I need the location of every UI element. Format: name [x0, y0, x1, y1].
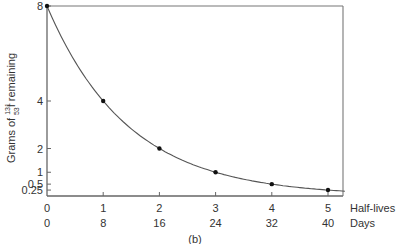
y-tick-label: 8 [37, 0, 43, 12]
x-label-halflives: Half-lives [350, 202, 396, 214]
data-point [213, 170, 217, 174]
y-tick-label: 4 [37, 95, 43, 107]
x-tick-days: 8 [100, 217, 106, 229]
y-tick-label: 2 [37, 143, 43, 155]
data-point [157, 146, 161, 150]
data-point [45, 4, 49, 8]
x-tick-days: 32 [266, 217, 278, 229]
x-tick-halflife: 1 [100, 202, 106, 214]
x-tick-halflife: 3 [213, 202, 219, 214]
decay-curve [47, 6, 345, 191]
x-tick-halflife: 0 [44, 202, 50, 214]
x-tick-days: 24 [209, 217, 221, 229]
data-point [270, 182, 274, 186]
data-point [326, 188, 330, 192]
decay-chart: 84210.50.25 0018216324432540 Grams of 13… [0, 0, 396, 244]
x-tick-days: 0 [44, 217, 50, 229]
data-point [101, 99, 105, 103]
x-label-days: Days [350, 217, 376, 229]
y-axis-label: Grams of 13153I remaining [4, 53, 20, 163]
x-tick-days: 16 [153, 217, 165, 229]
x-tick-halflife: 4 [269, 202, 275, 214]
figure-caption: (b) [188, 233, 201, 244]
x-tick-halflife: 2 [156, 202, 162, 214]
y-tick-label: 0.25 [22, 184, 43, 196]
x-tick-days: 40 [322, 217, 334, 229]
y-tick-label: 1 [37, 166, 43, 178]
x-tick-halflife: 5 [325, 202, 331, 214]
